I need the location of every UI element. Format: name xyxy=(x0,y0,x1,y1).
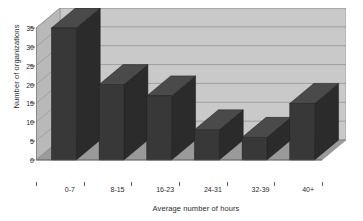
bar-side-face xyxy=(76,8,100,160)
bar-group xyxy=(51,8,100,160)
x-tick-mark xyxy=(274,182,275,186)
x-tick-mark xyxy=(84,182,85,186)
plot-area xyxy=(36,8,346,186)
plot-svg xyxy=(36,8,346,186)
y-tick-mark xyxy=(30,103,35,104)
y-tick-mark xyxy=(30,65,35,66)
bar-chart-figure: Number of organizations 05101520253035 0… xyxy=(0,0,363,221)
x-tick-label: 0-7 xyxy=(65,186,75,193)
x-tick-mark xyxy=(36,182,37,186)
bar-group xyxy=(99,65,148,160)
x-tick-label: 40+ xyxy=(302,186,314,193)
y-tick-mark xyxy=(30,84,35,85)
x-axis-title: Average number of hours xyxy=(46,204,346,213)
x-tick-mark xyxy=(131,182,132,186)
x-axis-ticks: 0-78-1516-2324-3132-3940+ xyxy=(0,186,363,200)
bar-front-face xyxy=(51,28,76,160)
y-tick-mark xyxy=(30,160,35,161)
y-tick-mark xyxy=(30,46,35,47)
bar-front-face xyxy=(242,137,267,160)
x-tick-mark xyxy=(179,182,180,186)
x-tick-mark xyxy=(227,182,228,186)
x-tick-label: 8-15 xyxy=(110,186,124,193)
y-tick-mark xyxy=(30,141,35,142)
bar-front-face xyxy=(99,85,124,160)
y-tick-mark xyxy=(30,122,35,123)
bar-front-face xyxy=(290,103,315,160)
bar-front-face xyxy=(194,130,219,160)
y-tick-mark xyxy=(30,28,35,29)
x-tick-label: 24-31 xyxy=(204,186,222,193)
x-tick-mark xyxy=(322,182,323,186)
bar-front-face xyxy=(147,96,172,160)
x-tick-label: 32-39 xyxy=(252,186,270,193)
x-tick-label: 16-23 xyxy=(156,186,174,193)
